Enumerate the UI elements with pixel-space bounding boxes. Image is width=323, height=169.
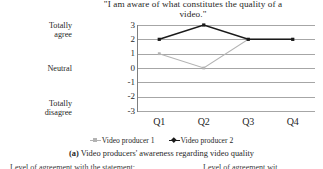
y-axis-category-totally-disagree: Totally disagree xyxy=(26,100,72,117)
x-tick-label: Q1 xyxy=(153,116,165,127)
clipped-text-right: Level of agreement wit xyxy=(203,163,277,169)
legend-label: Video producer 2 xyxy=(181,136,234,145)
y-tick-label: -1 xyxy=(116,78,135,87)
plot-area: Totally agree Neutral Totally disagree 3… xyxy=(0,21,323,121)
y-tick-label: 1 xyxy=(116,49,135,58)
x-tick-label: Q2 xyxy=(198,116,210,127)
legend-line-marker-icon xyxy=(169,137,180,144)
legend-label: Video producer 1 xyxy=(102,136,155,145)
figure-container: "I am aware of what constitutes the qual… xyxy=(0,0,323,169)
y-tick-label: -2 xyxy=(116,92,135,101)
data-point-marker xyxy=(158,52,161,55)
chart-legend: Video producer 1 Video producer 2 xyxy=(0,136,323,145)
chart-title-line-2: video." xyxy=(68,10,318,20)
caption-text: Video producers' awareness regarding vid… xyxy=(79,149,254,158)
y-tick-label: 3 xyxy=(116,21,135,30)
y-axis-category-totally-agree: Totally agree xyxy=(26,22,72,39)
chart-title: "I am aware of what constitutes the qual… xyxy=(68,0,318,19)
caption-label: (a) xyxy=(69,149,79,158)
gridline xyxy=(137,111,315,112)
legend-line-marker-icon xyxy=(90,137,101,144)
y-axis-category-neutral: Neutral xyxy=(26,65,72,74)
legend-item-video-producer-2[interactable]: Video producer 2 xyxy=(169,136,234,145)
x-tick-label: Q3 xyxy=(242,116,254,127)
x-axis-labels: Q1 Q2 Q3 Q4 xyxy=(137,116,315,130)
data-point-marker xyxy=(202,23,205,26)
y-tick-label: 2 xyxy=(116,35,135,44)
legend-item-video-producer-1[interactable]: Video producer 1 xyxy=(90,136,155,145)
y-cat-neutral-line1: Neutral xyxy=(47,64,72,73)
y-tick-label: -3 xyxy=(116,107,135,116)
legend-marker xyxy=(171,138,176,143)
data-point-marker xyxy=(247,38,250,41)
data-point-marker xyxy=(158,38,161,41)
clipped-page-text: Level of agreement with the statement: L… xyxy=(0,163,323,169)
x-tick-label: Q4 xyxy=(287,116,299,127)
data-point-marker xyxy=(202,67,205,70)
data-point-marker xyxy=(291,38,294,41)
legend-marker xyxy=(93,138,97,142)
figure-caption: (a) Video producers' awareness regarding… xyxy=(0,149,323,158)
series-line xyxy=(159,39,293,68)
y-tick-label: 0 xyxy=(116,64,135,73)
series-overlay xyxy=(137,25,315,111)
y-cat-agree-line2: agree xyxy=(54,30,72,39)
series-line xyxy=(159,25,293,39)
clipped-text-left: Level of agreement with the statement: xyxy=(10,163,135,169)
y-cat-disagree-line2: disagree xyxy=(45,108,72,117)
